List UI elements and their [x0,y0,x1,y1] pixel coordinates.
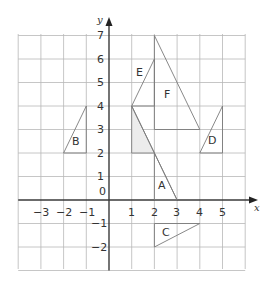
svg-text:2: 2 [97,147,104,160]
svg-text:−3: −3 [33,206,49,219]
svg-text:−2: −2 [56,206,72,219]
y-axis-arrow-icon [106,17,113,26]
x-tick-labels: −3 −2 −1 1 2 3 4 5 [33,206,226,219]
y-axis-label: y [96,14,103,25]
svg-text:4: 4 [97,100,104,113]
label-b: B [72,135,80,148]
svg-text:5: 5 [97,76,104,89]
svg-text:−2: −2 [91,241,107,254]
x-axis-label: x [254,202,260,213]
svg-text:6: 6 [97,53,104,66]
label-a: A [158,179,166,192]
origin-label: 0 [99,185,106,198]
label-e: E [136,66,143,79]
svg-text:−1: −1 [91,217,107,230]
svg-text:3: 3 [173,206,180,219]
label-d: D [208,134,216,147]
svg-text:7: 7 [97,29,104,42]
label-f: F [164,88,170,101]
svg-text:4: 4 [196,206,203,219]
label-c: C [162,226,170,239]
svg-text:1: 1 [128,206,135,219]
y-tick-labels: 7 6 5 4 3 2 1 −1 −2 [91,29,107,254]
svg-text:3: 3 [97,123,104,136]
svg-text:1: 1 [97,170,104,183]
svg-text:5: 5 [219,206,226,219]
svg-text:2: 2 [151,206,158,219]
coordinate-grid-diagram: x y 0 −3 −2 −1 1 2 3 4 5 7 6 5 4 3 2 1 −… [0,0,266,281]
